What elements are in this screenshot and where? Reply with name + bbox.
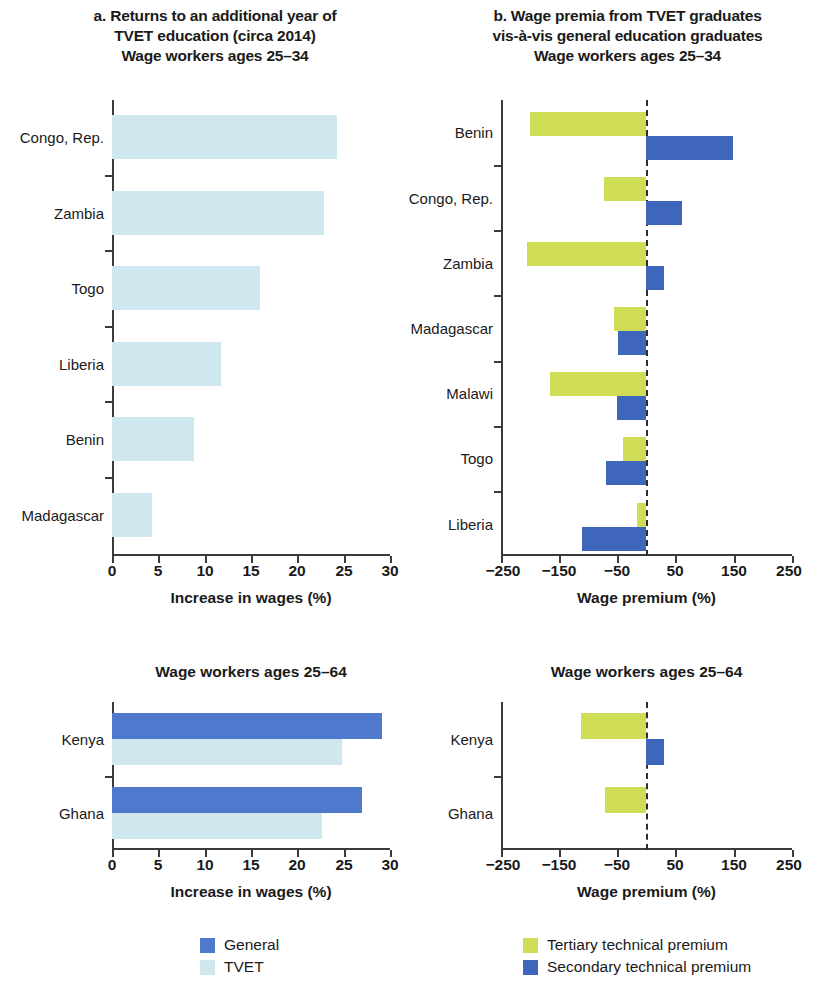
legend-label-tvet: TVET: [224, 958, 264, 976]
x-tick-label: 10: [196, 856, 213, 874]
bar-tertiary-madagascar: [614, 307, 646, 331]
legend-swatch-secondary: [523, 960, 538, 975]
x-tick-label: 250: [776, 856, 802, 874]
cat-label-liberia: Liberia: [0, 356, 104, 373]
panel-b-title-line1: b. Wage premia from TVET graduates: [440, 6, 815, 26]
x-tick-label: −150: [542, 562, 577, 580]
cat-label-togo: Togo: [386, 450, 493, 467]
bar-secondary-congo: [646, 201, 682, 225]
y-tick: [105, 175, 112, 177]
cat-label-zambia: Zambia: [386, 255, 493, 272]
bar-tvet-togo: [112, 266, 260, 310]
x-tick-label: 20: [288, 562, 305, 580]
x-tick-label: 15: [242, 562, 259, 580]
bar-tertiary-malawi: [550, 372, 646, 396]
bar-secondary-zambia: [646, 266, 664, 290]
bar-secondary-kenya: [646, 739, 664, 765]
panel-a-title-line1: a. Returns to an additional year of: [40, 6, 390, 26]
chart-b-top: Benin Congo, Rep. Zambia Madagascar Mala…: [501, 100, 792, 556]
bar-secondary-benin: [646, 136, 733, 160]
x-tick-label: 25: [335, 562, 352, 580]
x-tick-label: 25: [335, 856, 352, 874]
x-tick-label: 10: [196, 562, 213, 580]
legend-item-tvet: TVET: [200, 956, 279, 978]
legend-item-secondary: Secondary technical premium: [523, 956, 751, 978]
zero-reference-line: [646, 100, 648, 556]
legend-label-secondary: Secondary technical premium: [547, 958, 751, 976]
bar-tvet-benin: [112, 417, 194, 461]
y-tick: [105, 401, 112, 403]
chart-a-bottom: Kenya Ghana 0 5 10 15 20 25 30 Increase …: [112, 702, 390, 850]
legend-item-general: General: [200, 934, 279, 956]
y-tick: [105, 776, 112, 778]
legend-item-tertiary: Tertiary technical premium: [523, 934, 751, 956]
x-tick-label: 5: [154, 856, 163, 874]
cat-label-benin: Benin: [386, 124, 493, 141]
y-tick: [494, 230, 501, 232]
cat-label-congo: Congo, Rep.: [0, 129, 104, 146]
x-tick-label: 250: [776, 562, 802, 580]
x-tick-label: −250: [486, 562, 521, 580]
bar-tvet-liberia: [112, 342, 221, 386]
x-tick-label: 50: [666, 856, 683, 874]
x-tick-label: 150: [721, 856, 747, 874]
cat-label-kenya: Kenya: [386, 731, 493, 748]
panel-b-title-line3: Wage workers ages 25–34: [440, 46, 815, 66]
bar-tvet-congo: [112, 115, 337, 159]
bar-general-kenya: [112, 713, 382, 739]
bar-secondary-liberia: [582, 527, 646, 551]
x-tick-label: 50: [666, 562, 683, 580]
legend-left: General TVET: [200, 934, 279, 978]
bar-tertiary-congo: [604, 177, 646, 201]
chart-a-bottom-title: Wage workers ages 25–64: [112, 662, 390, 682]
panel-b-title-line2: vis-à-vis general education graduates: [440, 26, 815, 46]
cat-label-malawi: Malawi: [386, 385, 493, 402]
bar-tertiary-ghana: [605, 787, 646, 813]
y-axis-line: [112, 100, 114, 556]
x-tick-label: −250: [486, 856, 521, 874]
y-axis-line: [501, 100, 503, 556]
x-tick-label: −50: [604, 562, 630, 580]
x-tick-label: −150: [542, 856, 577, 874]
cat-label-zambia: Zambia: [0, 205, 104, 222]
cat-label-benin: Benin: [0, 431, 104, 448]
legend-right: Tertiary technical premium Secondary tec…: [523, 934, 751, 978]
x-tick-label: 150: [721, 562, 747, 580]
x-tick-label: 5: [154, 562, 163, 580]
cat-label-liberia: Liberia: [386, 516, 493, 533]
cat-label-kenya: Kenya: [0, 731, 104, 748]
y-tick: [494, 165, 501, 167]
bar-general-ghana: [112, 787, 362, 813]
x-axis-title: Wage premium (%): [501, 589, 792, 607]
y-tick: [105, 477, 112, 479]
x-axis-title: Wage premium (%): [501, 883, 792, 901]
cat-label-congo: Congo, Rep.: [386, 190, 493, 207]
bar-secondary-malawi: [617, 396, 646, 420]
cat-label-ghana: Ghana: [0, 805, 104, 822]
x-tick-label: −50: [604, 856, 630, 874]
figure-root: a. Returns to an additional year of TVET…: [0, 0, 820, 988]
cat-label-madagascar: Madagascar: [0, 507, 104, 524]
legend-label-tertiary: Tertiary technical premium: [547, 936, 728, 954]
bar-tvet-madagascar: [112, 493, 152, 537]
chart-b-bottom: Kenya Ghana −250 −150 −50 50 150 250 Wag…: [501, 702, 792, 850]
y-tick: [494, 491, 501, 493]
legend-swatch-general: [200, 938, 215, 953]
x-tick-label: 20: [288, 856, 305, 874]
y-tick: [105, 250, 112, 252]
x-tick-label: 0: [108, 856, 117, 874]
bar-tvet-ghana: [112, 813, 322, 839]
bar-tertiary-benin: [530, 112, 646, 136]
bar-tertiary-liberia: [637, 503, 646, 527]
bar-tvet-kenya: [112, 739, 342, 765]
bar-tertiary-zambia: [527, 242, 646, 266]
y-tick: [494, 426, 501, 428]
y-tick: [494, 361, 501, 363]
x-tick-label: 0: [108, 562, 117, 580]
x-tick-label: 15: [242, 856, 259, 874]
bar-tvet-zambia: [112, 191, 324, 235]
y-tick: [494, 776, 501, 778]
panel-b-title: b. Wage premia from TVET graduates vis-à…: [440, 6, 815, 66]
bar-tertiary-togo: [623, 437, 646, 461]
y-tick: [494, 295, 501, 297]
